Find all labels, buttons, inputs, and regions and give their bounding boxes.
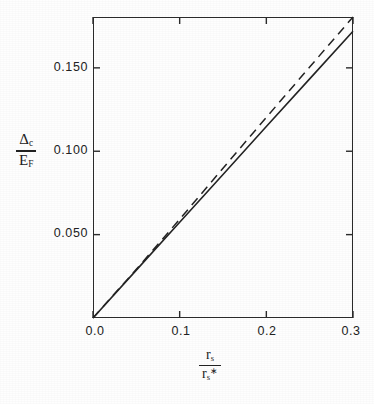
- y-tick-label: 0.150: [54, 60, 88, 74]
- series-line-dashed: [93, 17, 353, 318]
- x-tick-label: 0.3: [341, 324, 360, 338]
- y-axis-fraction: Δc EF: [16, 132, 36, 170]
- x-tick-label: 0.2: [257, 324, 276, 338]
- x-tick-label: 0.0: [85, 324, 104, 338]
- series-line-solid: [93, 31, 353, 318]
- y-axis-numerator: Δc: [16, 132, 36, 149]
- figure: 0.150 0.100 0.050 0.0 0.1 0.2 0.3 Δc EF …: [0, 0, 374, 404]
- x-axis-label: rs rs∗: [199, 348, 221, 382]
- x-axis-fraction: rs rs∗: [199, 348, 221, 382]
- y-tick-label: 0.100: [54, 143, 88, 157]
- x-axis-numerator: rs: [199, 348, 221, 363]
- plot-area: [93, 17, 353, 318]
- y-axis-label: Δc EF: [16, 132, 36, 170]
- series-layer: [93, 17, 353, 318]
- y-axis-denominator: EF: [16, 153, 36, 170]
- y-tick-label: 0.050: [54, 226, 88, 240]
- x-axis-denominator: rs∗: [199, 367, 221, 382]
- x-tick-label: 0.1: [171, 324, 190, 338]
- x-tick-labels: 0.0 0.1 0.2 0.3: [0, 324, 374, 346]
